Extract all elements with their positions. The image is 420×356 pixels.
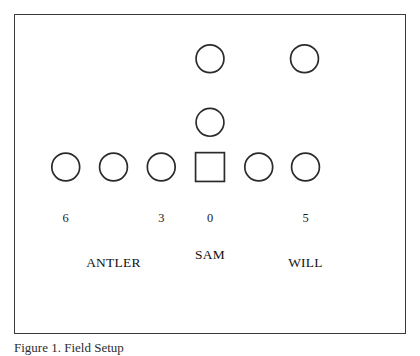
player-circle-line-1	[52, 153, 80, 181]
player-circle-mid-middle	[196, 108, 224, 136]
number-label-0: 0	[207, 211, 213, 225]
group-label-antler: ANTLER	[86, 255, 141, 270]
number-label-6: 6	[63, 211, 69, 225]
figure-panel: 6 3 0 5 ANTLER SAM WILL	[14, 14, 406, 334]
player-circle-back-right	[291, 45, 319, 73]
group-label-sam: SAM	[195, 247, 225, 262]
player-square-line-center	[196, 153, 225, 182]
player-circle-line-5	[245, 153, 273, 181]
group-label-will: WILL	[288, 255, 323, 270]
formation-diagram: 6 3 0 5 ANTLER SAM WILL	[15, 15, 405, 333]
player-circle-line-6	[292, 153, 320, 181]
figure-caption: Figure 1. Field Setup	[14, 340, 406, 356]
player-circle-line-3	[147, 153, 175, 181]
number-label-5: 5	[302, 211, 308, 225]
player-circle-back-middle	[196, 45, 224, 73]
number-label-3: 3	[158, 211, 164, 225]
player-circle-line-2	[100, 153, 128, 181]
